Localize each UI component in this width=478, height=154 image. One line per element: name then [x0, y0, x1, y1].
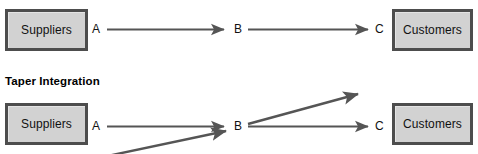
entity-box-suppliers-top: Suppliers — [5, 9, 88, 51]
node-label-c-top: C — [375, 23, 384, 35]
node-label-a-top: A — [92, 23, 100, 35]
entity-label-customers: Customers — [403, 118, 462, 130]
entity-box-customers-top: Customers — [392, 9, 473, 51]
entity-box-customers-bottom: Customers — [392, 103, 473, 145]
entity-label-customers: Customers — [403, 24, 462, 36]
diagram-canvas: Suppliers A B C Customers Taper Integrat… — [0, 0, 478, 154]
entity-label-suppliers: Suppliers — [21, 24, 72, 36]
arrow-bottom-lower-left-to-b — [98, 131, 226, 154]
entity-box-suppliers-bottom: Suppliers — [5, 103, 88, 145]
node-label-b-top: B — [234, 23, 242, 35]
node-label-b-bottom: B — [234, 120, 242, 132]
node-label-a-bottom: A — [92, 120, 100, 132]
arrow-bottom-b-to-upper-right — [248, 94, 358, 124]
node-label-c-bottom: C — [375, 120, 384, 132]
entity-label-suppliers: Suppliers — [21, 118, 72, 130]
section-title-taper-integration: Taper Integration — [5, 76, 100, 88]
